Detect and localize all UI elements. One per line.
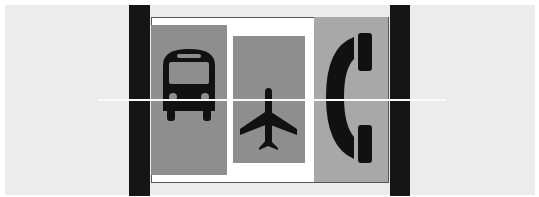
scan-line: [98, 99, 446, 101]
